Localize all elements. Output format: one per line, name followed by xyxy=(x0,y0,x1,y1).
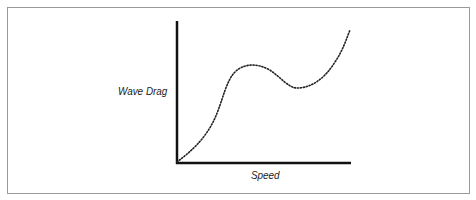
y-axis-label: Wave Drag xyxy=(118,85,167,97)
chart-plot xyxy=(0,0,476,200)
x-axis-label: Speed xyxy=(251,169,280,181)
wave-drag-curve xyxy=(177,30,350,162)
